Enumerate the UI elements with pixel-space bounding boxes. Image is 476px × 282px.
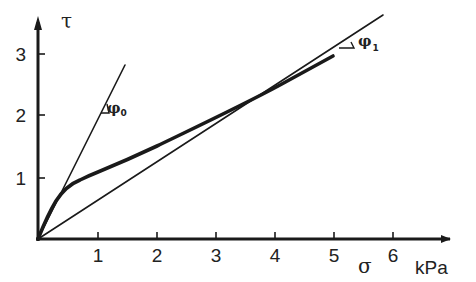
x-axis-label: σ [358,254,372,278]
x-tick-labels: 1 2 3 4 5 6 [93,245,399,266]
x-tick-label: 4 [270,245,281,266]
x-tick-label: 5 [329,245,340,266]
x-tick-label: 6 [388,245,399,266]
y-tick-labels: 1 2 3 [15,44,26,189]
envelope-curve [38,56,333,239]
y-tick-label: 2 [15,105,26,126]
secant-line-phi1 [38,15,383,239]
x-axis-unit: kPa [415,257,448,278]
x-tick-label: 3 [211,245,222,266]
y-tick-label: 3 [15,44,26,65]
x-tick-label: 1 [93,245,104,266]
y-axis-arrow-icon [34,16,42,30]
y-axis-label: τ [61,9,72,33]
angle-marker-phi1: φ1 [339,32,379,53]
plot-lines [38,15,383,239]
phi0-label: φ0 [107,99,127,118]
axes [34,16,450,241]
y-tick-label: 1 [15,168,26,189]
x-tick-label: 2 [152,245,163,266]
phi1-label: φ1 [358,32,379,53]
angle-marker-phi0: φ0 [101,99,127,118]
shear-strength-chart: 1 2 3 4 5 6 1 2 3 τ σ kPa φ0 φ1 [0,0,476,282]
